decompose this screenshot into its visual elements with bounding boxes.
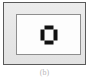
subfigure-caption: (b) xyxy=(0,67,89,78)
figure-outer-frame xyxy=(3,2,86,65)
square-ring-bar-top xyxy=(44,25,53,29)
square-ring-bar-left xyxy=(40,29,44,40)
figure-thumbnail: (b) xyxy=(0,0,89,80)
square-ring-bar-right xyxy=(53,29,57,40)
square-ring-bar-bottom xyxy=(44,40,53,44)
square-ring-marker-icon xyxy=(40,25,57,44)
figure-inner-rectangle xyxy=(16,14,81,55)
